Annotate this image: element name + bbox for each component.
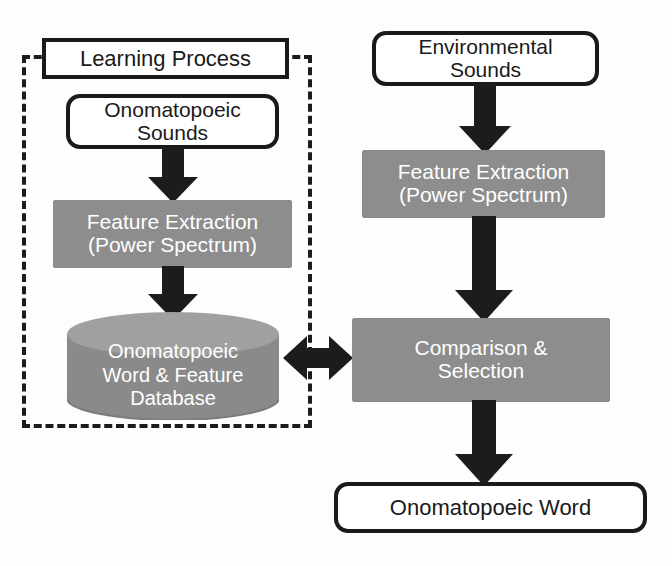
node-onomatopoeic-sounds[interactable]: Onomatopoeic Sounds — [66, 94, 279, 149]
node-environmental-sounds-label: Environmental Sounds — [418, 36, 552, 81]
node-environmental-sounds[interactable]: Environmental Sounds — [372, 31, 599, 86]
node-comparison-selection[interactable]: Comparison & Selection — [352, 318, 610, 402]
node-onomatopoeic-word-label: Onomatopoeic Word — [390, 496, 591, 520]
node-feature-extraction-left[interactable]: Feature Extraction (Power Spectrum) — [53, 200, 292, 268]
node-feature-extraction-right-label: Feature Extraction (Power Spectrum) — [398, 161, 570, 206]
arrow-sounds-to-feature-extraction-left — [148, 147, 198, 203]
node-comparison-selection-label: Comparison & Selection — [414, 337, 547, 382]
node-feature-extraction-left-label: Feature Extraction (Power Spectrum) — [87, 211, 259, 256]
node-onomatopoeic-sounds-label: Onomatopoeic Sounds — [104, 99, 241, 144]
cylinder-shape — [67, 312, 279, 420]
arrow-environmental-sounds-to-feature-extraction-right — [459, 84, 511, 154]
node-learning-process-label: Learning Process — [80, 47, 251, 71]
node-feature-extraction-right[interactable]: Feature Extraction (Power Spectrum) — [362, 150, 605, 218]
flow-diagram-canvas: Learning Process Onomatopoeic Sounds Fea… — [0, 0, 672, 566]
node-onomatopoeic-word[interactable]: Onomatopoeic Word — [334, 482, 647, 533]
node-database-cylinder[interactable]: Onomatopoeic Word & Feature Database — [67, 312, 279, 420]
arrow-comparison-to-onomatopoeic-word — [455, 400, 513, 486]
arrow-feature-extraction-right-to-comparison — [455, 216, 513, 322]
arrow-database-comparison-bidirectional — [283, 334, 353, 382]
node-learning-process[interactable]: Learning Process — [42, 38, 289, 79]
